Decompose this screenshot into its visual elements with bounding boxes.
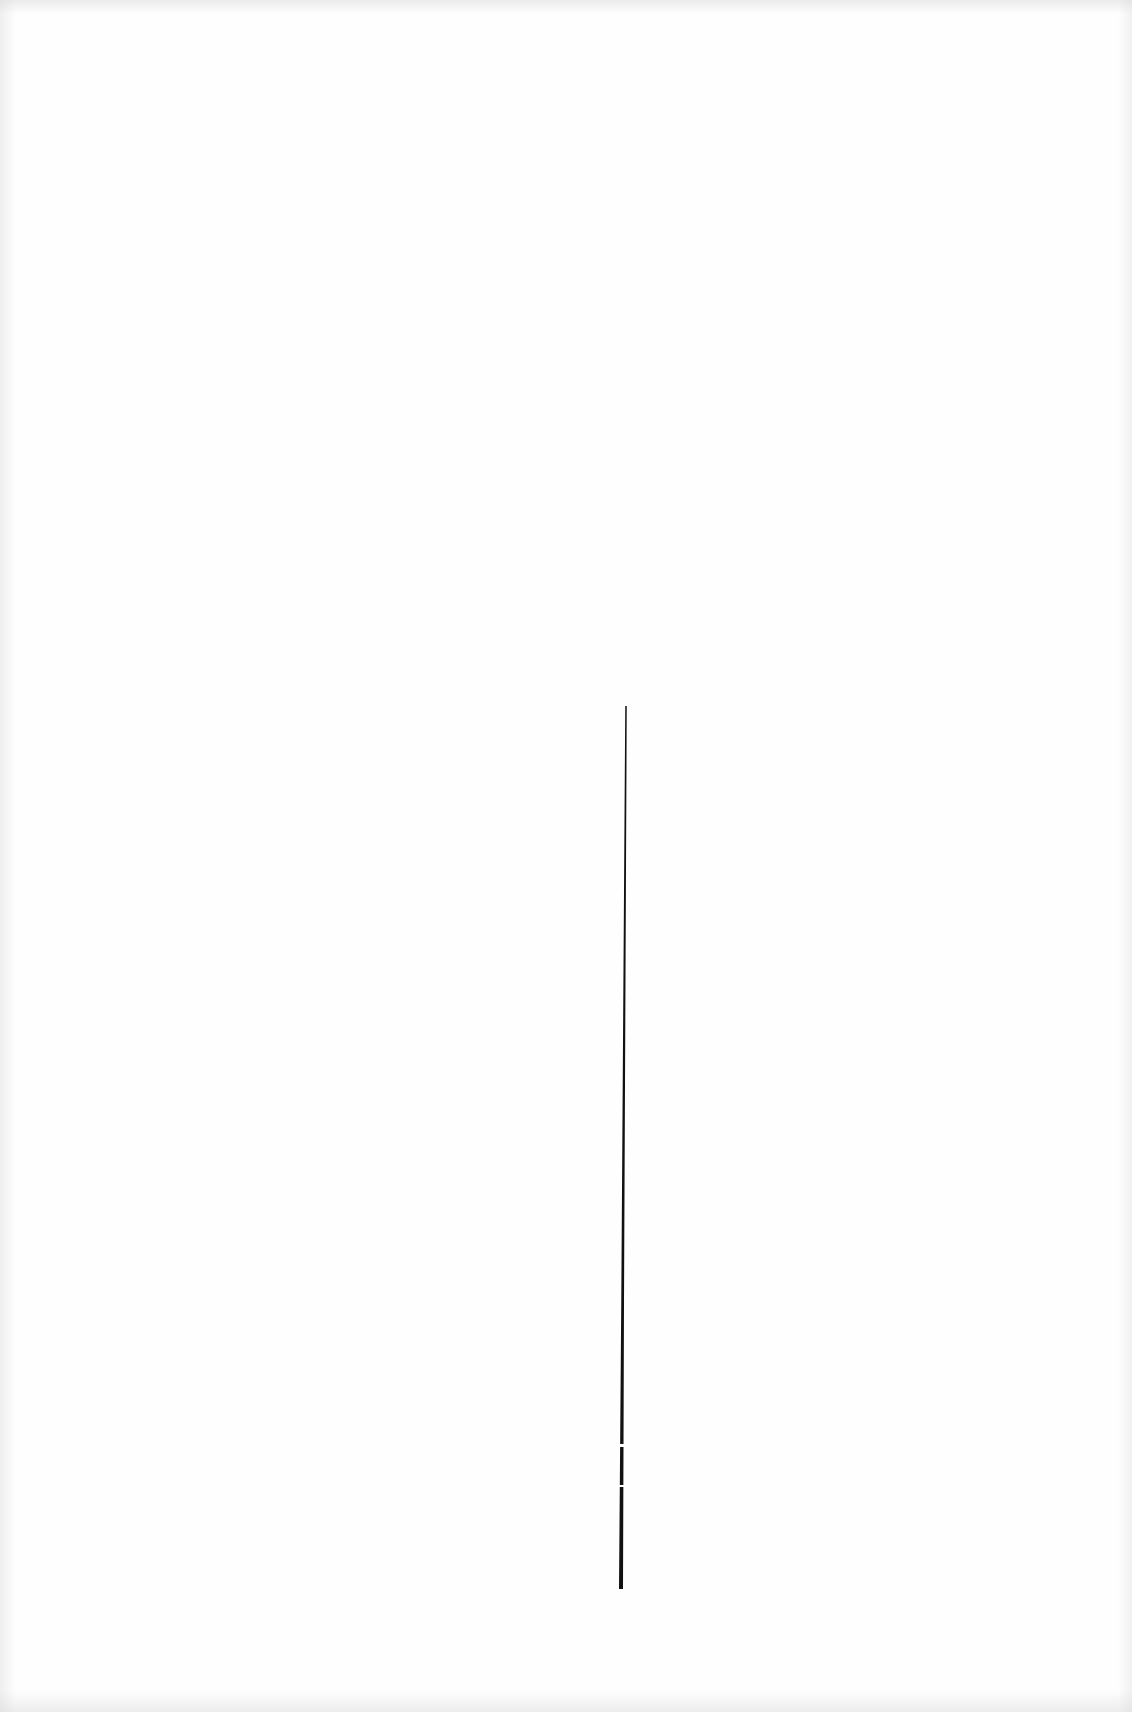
vertical-rule-line	[0, 0, 1132, 1712]
scanned-page	[0, 0, 1132, 1712]
